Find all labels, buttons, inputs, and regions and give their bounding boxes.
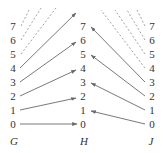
h-label-3: 3 [80,76,86,88]
arrow-j2-h5 [91,55,145,96]
h-label-0: 0 [80,118,86,130]
arrow-g4-h8 [20,13,76,68]
j-label-5: 5 [149,48,155,60]
g-label-2: 2 [10,90,16,102]
g-label-3: 3 [10,76,16,88]
dashed-g [21,8,56,54]
dashed-j6 [127,10,145,40]
dashed-g7 [21,10,29,26]
g-column-title: G [10,135,18,147]
g-label-0: 0 [10,118,16,130]
column-h-labels: 0 1 2 3 4 5 6 7 H [79,20,89,147]
map-diagram: 0 1 2 3 4 5 6 7 G 0 1 2 3 4 5 6 7 H 0 1 … [0,0,163,153]
j-label-6: 6 [149,34,155,46]
h-label-5: 5 [80,48,86,60]
j-column-title: J [149,135,155,147]
arrow-j0-h1 [91,111,145,124]
arrow-g1-h2 [20,98,76,110]
j-label-3: 3 [149,76,155,88]
dashed-j7 [137,10,145,26]
dashed-g6 [21,8,41,40]
j-label-1: 1 [149,104,155,116]
h-column-title: H [79,135,89,147]
arrow-g2-h4 [20,70,76,96]
h-label-2: 2 [80,90,86,102]
j-label-2: 2 [149,90,155,102]
j-label-4: 4 [149,62,155,74]
j-label-7: 7 [149,20,155,32]
h-label-4: 4 [80,62,86,74]
g-label-7: 7 [10,20,16,32]
g-label-1: 1 [10,104,16,116]
arrow-j3-h7 [91,27,145,82]
h-label-6: 6 [80,34,86,46]
arrows-j-to-h [91,27,145,124]
g-label-4: 4 [10,62,16,74]
g-label-5: 5 [10,48,16,60]
arrow-g3-h6 [20,42,76,82]
arrows-g-to-h [20,13,77,124]
j-label-0: 0 [149,118,155,130]
column-j-labels: 0 1 2 3 4 5 6 7 J [149,20,156,147]
h-label-7: 7 [80,20,86,32]
arrow-j1-h3 [91,83,145,110]
column-g-labels: 0 1 2 3 4 5 6 7 G [10,20,18,147]
g-label-6: 6 [10,34,16,46]
h-label-1: 1 [80,104,86,116]
